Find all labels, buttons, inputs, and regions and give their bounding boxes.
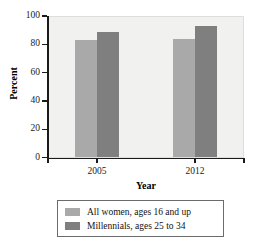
legend-item-label: Millennials, ages 25 to 34 [87,221,185,231]
x-axis-tick-label: 2012 [165,166,225,176]
legend-item: All women, ages 16 and up [58,205,223,219]
legend-swatch-icon [65,208,80,216]
bar [75,40,97,157]
legend-swatch-icon [65,222,80,230]
legend-item-label: All women, ages 16 and up [87,207,191,217]
y-axis-tick-label: 0 [8,153,40,163]
title-clipped-area [0,0,261,6]
y-axis-tick-label: 20 [8,124,40,134]
legend: All women, ages 16 and up Millennials, a… [57,200,224,237]
bar [97,32,119,158]
y-axis-line [47,16,49,159]
y-axis-title: Percent [8,44,19,124]
x-axis-line [47,158,244,160]
x-axis-title: Year [48,180,244,191]
bar-chart: 020406080100 20052012 Percent Year All w… [0,0,261,241]
legend-item: Millennials, ages 25 to 34 [58,219,223,233]
bar [173,39,195,158]
y-axis-tick-label: 100 [8,11,40,21]
x-axis-tick-label: 2005 [67,166,127,176]
bar [195,26,217,158]
